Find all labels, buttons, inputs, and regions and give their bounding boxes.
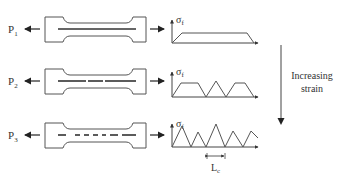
critical-length-label: Lc [211, 162, 220, 175]
specimen-row-3: P3σf [8, 118, 258, 148]
specimen-row-1: P1σf [8, 14, 258, 43]
increasing-strain-indicator: Increasing strain [278, 45, 333, 125]
specimen-row-2: P2σf [8, 66, 258, 97]
specimen-rows: P1σfP2σfP3σf [8, 14, 258, 148]
stress-axis-label: σf [176, 66, 184, 79]
fragmentation-diagram: P1σfP2σfP3σf Increasing strain Lc [0, 0, 349, 179]
strain-label-line2: strain [301, 83, 323, 94]
fiber-stress-curve [172, 81, 254, 97]
down-arrow-icon [278, 118, 285, 125]
fiber-stress-curve [172, 33, 254, 43]
critical-length-marker: Lc [207, 153, 225, 175]
load-label: P1 [8, 23, 18, 38]
stress-axis-label: σf [176, 14, 184, 27]
load-label: P2 [8, 75, 18, 90]
load-label: P3 [8, 129, 18, 144]
fiber-stress-curve [172, 124, 258, 147]
strain-label-line1: Increasing [291, 70, 333, 81]
